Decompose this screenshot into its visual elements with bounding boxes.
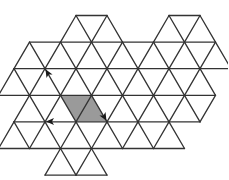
grid-line — [154, 95, 170, 122]
grid-line — [76, 42, 92, 69]
grid-line — [169, 16, 185, 43]
grid-line — [138, 122, 154, 149]
grid-line — [61, 149, 77, 176]
grid-line — [200, 69, 216, 96]
grid-line — [138, 69, 154, 96]
grid-line — [45, 42, 61, 69]
grid-line — [185, 16, 201, 43]
grid-line — [76, 149, 92, 176]
grid-line — [123, 122, 139, 149]
grid-line — [169, 122, 185, 149]
grid-line — [0, 69, 14, 96]
grid-line — [30, 42, 46, 69]
grid-line — [107, 16, 123, 43]
grid-line — [154, 122, 170, 149]
grid-line — [45, 95, 61, 122]
grid-line — [123, 69, 139, 96]
grid-line — [76, 16, 92, 43]
grid-line — [61, 69, 77, 96]
grid-line — [45, 149, 61, 176]
grid-line — [61, 122, 77, 149]
grid-line — [30, 95, 46, 122]
grid-line — [61, 16, 77, 43]
grid-line — [154, 69, 170, 96]
grid-line — [14, 122, 30, 149]
grid-line — [76, 69, 92, 96]
grid-line — [123, 95, 139, 122]
grid-line — [14, 69, 30, 96]
grid-line — [138, 42, 154, 69]
grid-line — [200, 16, 216, 43]
grid-lines — [0, 16, 228, 176]
grid-line — [92, 16, 108, 43]
grid-line — [45, 122, 61, 149]
grid-line — [216, 42, 229, 69]
grid-svg — [0, 0, 228, 180]
grid-line — [185, 95, 201, 122]
grid-line — [200, 42, 216, 69]
grid-line — [123, 42, 139, 69]
grid-line — [169, 69, 185, 96]
grid-line — [30, 122, 46, 149]
grid-line — [107, 122, 123, 149]
grid-line — [30, 69, 46, 96]
grid-line — [154, 16, 170, 43]
grid-line — [107, 69, 123, 96]
grid-line — [154, 42, 170, 69]
grid-line — [185, 42, 201, 69]
grid-line — [92, 42, 108, 69]
grid-line — [92, 149, 108, 176]
grid-line — [76, 122, 92, 149]
grid-line — [92, 69, 108, 96]
grid-line — [169, 95, 185, 122]
grid-line — [107, 42, 123, 69]
triangular-grid-diagram — [0, 0, 228, 180]
grid-line — [61, 42, 77, 69]
grid-line — [92, 122, 108, 149]
grid-line — [185, 69, 201, 96]
grid-line — [14, 42, 30, 69]
grid-line — [169, 42, 185, 69]
grid-line — [200, 95, 216, 122]
grid-line — [14, 95, 30, 122]
grid-line — [138, 95, 154, 122]
grid-line — [107, 95, 123, 122]
grid-line — [0, 122, 14, 149]
